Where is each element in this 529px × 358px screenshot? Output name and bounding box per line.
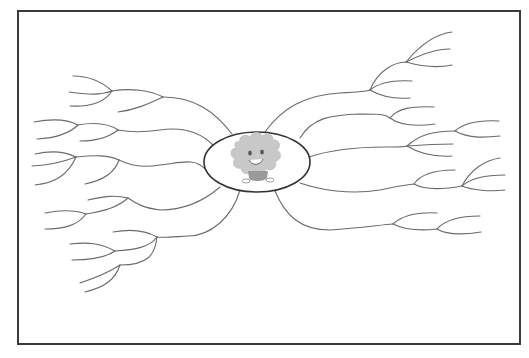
left-branch-3: [32, 152, 206, 185]
right-branch-2: [300, 107, 435, 138]
left-branch-1: [69, 76, 232, 134]
right-branch-5: [275, 191, 481, 234]
left-branch-5: [70, 190, 240, 292]
left-branch-2: [34, 120, 213, 145]
right-branch-4: [300, 158, 505, 192]
right-branch-3: [309, 121, 500, 157]
right-branch-1: [265, 32, 452, 132]
mind-map: [0, 0, 529, 358]
left-branch-4: [45, 187, 220, 229]
